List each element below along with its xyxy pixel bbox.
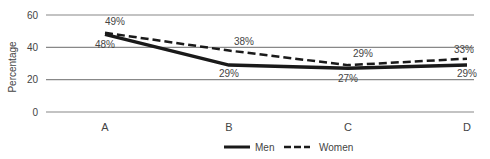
y-tick-label: 0 [32, 107, 38, 118]
y-tick-label: 40 [27, 42, 39, 53]
y-tick-label: 60 [27, 10, 39, 21]
line-chart: 0204060 Percentage ABCD 48%29%27%29%49%3… [0, 0, 490, 159]
x-tick-label: B [225, 121, 232, 133]
y-tick-label: 20 [27, 74, 39, 85]
x-axis-ticks: ABCD [101, 121, 471, 133]
x-tick-label: D [463, 121, 471, 133]
x-tick-label: C [344, 121, 352, 133]
data-label-men: 29% [219, 68, 239, 79]
data-label-men: 48% [95, 39, 115, 50]
data-label-women: 29% [353, 48, 373, 59]
data-label-women: 49% [105, 16, 125, 27]
data-labels: 48%29%27%29%49%38%29%33% [95, 16, 477, 85]
data-label-men: 29% [457, 68, 477, 79]
data-label-men: 27% [338, 73, 358, 84]
y-axis-ticks: 0204060 [27, 10, 39, 118]
chart-canvas: 0204060 Percentage ABCD 48%29%27%29%49%3… [0, 0, 490, 159]
data-label-women: 38% [234, 36, 254, 47]
data-label-women: 33% [454, 44, 474, 55]
data-series [105, 33, 467, 69]
y-axis-label: Percentage [7, 41, 18, 93]
gridlines [46, 15, 474, 112]
legend: Men Women [224, 142, 353, 153]
legend-men-label: Men [255, 142, 274, 153]
legend-women-label: Women [319, 142, 353, 153]
x-tick-label: A [101, 121, 109, 133]
